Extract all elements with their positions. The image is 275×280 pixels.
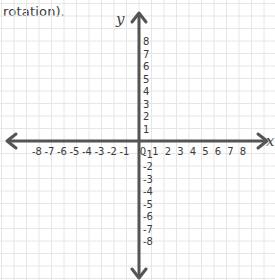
y-tick-label: -8 [143,236,153,247]
x-tick-label: -3 [95,146,105,157]
y-tick-label: -3 [143,174,153,185]
x-tick-label: 3 [177,146,183,157]
y-tick-label: 7 [143,49,149,60]
x-tick-label: 7 [227,146,233,157]
y-tick-label: -5 [143,199,153,210]
coordinate-plane-figure: rotation). -8-7-6-5-4-3-2-10123456788765… [0,0,275,280]
y-tick-label: 8 [143,36,149,47]
x-tick-label: 6 [215,146,221,157]
x-tick-label: 8 [240,146,246,157]
x-tick-label: -6 [57,146,67,157]
y-tick-label: 3 [143,99,149,110]
x-tick-label: -7 [45,146,55,157]
x-tick-label: -2 [107,146,117,157]
y-tick-label: -2 [143,161,153,172]
y-tick-label: 2 [143,111,149,122]
x-tick-label: 4 [190,146,196,157]
y-tick-label: -4 [143,186,153,197]
y-tick-label: 1 [143,124,149,135]
x-tick-label: 5 [202,146,208,157]
x-axis-label: x [266,132,275,150]
y-tick-label: 4 [143,86,149,97]
y-tick-label: -6 [143,211,153,222]
y-axis-label: y [115,10,125,28]
y-tick-label: -7 [143,224,153,235]
y-tick-label: 5 [143,74,149,85]
x-tick-label: 1 [152,146,158,157]
x-tick-label: -4 [82,146,92,157]
x-tick-label: -8 [32,146,42,157]
y-tick-label: 6 [143,61,149,72]
x-tick-label: 2 [165,146,171,157]
x-tick-label: -1 [120,146,130,157]
x-tick-label: -5 [70,146,80,157]
y-tick-label: -1 [143,149,153,160]
coordinate-plane: -8-7-6-5-4-3-2-101234567887654321-1-2-3-… [0,0,275,280]
